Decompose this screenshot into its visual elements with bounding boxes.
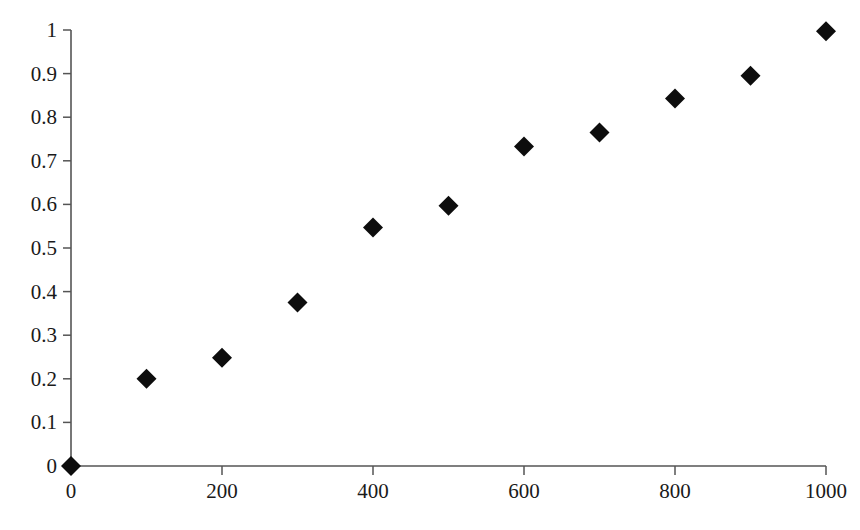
plot-area: 00.10.20.30.40.50.60.70.80.91 0200400600…: [0, 0, 860, 530]
data-point: [514, 136, 534, 156]
x-axis-tick-labels: 02004006008001000: [66, 479, 847, 503]
data-point: [288, 293, 308, 313]
y-tick-label-8: 0.8: [31, 105, 57, 129]
data-point-series: [61, 21, 836, 476]
y-tick-label-3: 0.3: [31, 323, 57, 347]
x-axis-ticks: [71, 466, 826, 475]
y-tick-label-6: 0.6: [31, 192, 57, 216]
data-point: [137, 369, 157, 389]
y-tick-label-7: 0.7: [31, 149, 57, 173]
y-tick-label-4: 0.4: [31, 280, 58, 304]
y-tick-label-5: 0.5: [31, 236, 57, 260]
y-tick-label-10: 1: [47, 18, 58, 42]
data-point: [212, 348, 232, 368]
y-tick-label-9: 0.9: [31, 62, 57, 86]
y-axis-group: 00.10.20.30.40.50.60.70.80.91: [31, 18, 71, 478]
y-tick-label-0: 0: [47, 454, 58, 478]
data-point: [816, 21, 836, 41]
y-tick-label-2: 0.2: [31, 367, 57, 391]
x-tick-label-10: 1000: [805, 479, 847, 503]
y-axis-ticks: [63, 30, 71, 466]
scatter-chart: 00.10.20.30.40.50.60.70.80.91 0200400600…: [0, 0, 860, 530]
x-tick-label-4: 400: [357, 479, 389, 503]
y-axis-tick-labels: 00.10.20.30.40.50.60.70.80.91: [31, 18, 58, 478]
y-tick-label-1: 0.1: [31, 410, 57, 434]
x-axis-group: 02004006008001000: [66, 466, 847, 503]
data-point: [590, 122, 610, 142]
data-point: [61, 456, 81, 476]
x-tick-label-0: 0: [66, 479, 77, 503]
x-tick-label-2: 200: [206, 479, 238, 503]
x-tick-label-6: 600: [508, 479, 540, 503]
data-point: [741, 66, 761, 86]
data-point: [363, 218, 383, 238]
data-point: [439, 196, 459, 216]
data-point: [665, 88, 685, 108]
x-tick-label-8: 800: [659, 479, 691, 503]
